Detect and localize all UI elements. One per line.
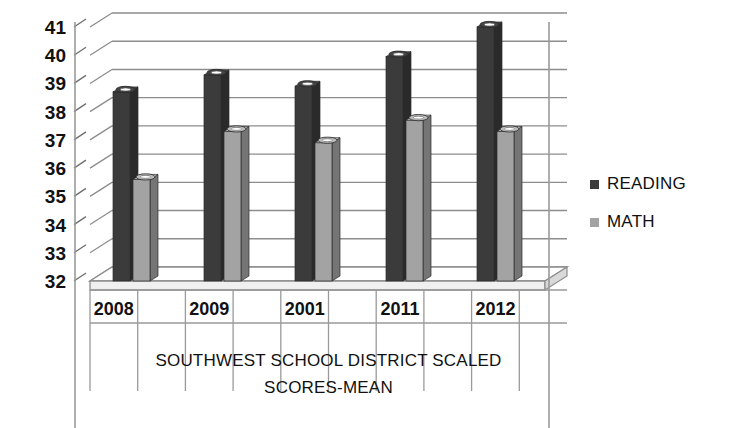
chart-container: 41403938373635343332 2008200920012011201… — [0, 0, 735, 428]
y-axis-tick-label: 35 — [45, 186, 67, 207]
category-label: 2011 — [381, 299, 420, 319]
bar-chart: 41403938373635343332 2008200920012011201… — [0, 0, 735, 428]
bar-top-hole — [504, 127, 514, 130]
chart-title-line-1: SOUTHWEST SCHOOL DISTRICT SCALED — [155, 351, 501, 370]
bar-top-hole — [231, 127, 241, 130]
bar-front-face — [133, 179, 150, 281]
legend-swatch-math — [590, 218, 599, 227]
bar-math-2009 — [224, 126, 249, 281]
bar-top-hole — [322, 139, 332, 142]
bar-top-hole — [211, 71, 221, 74]
bar-front-face — [295, 86, 312, 281]
bar-top-hole — [120, 88, 130, 91]
category-label: 2012 — [475, 299, 515, 319]
bar-front-face — [386, 57, 403, 281]
bar-top-hole — [484, 23, 494, 26]
category-label: 2009 — [189, 299, 229, 319]
bar-math-2011 — [406, 115, 431, 281]
category-label: 2001 — [285, 299, 325, 319]
category-label: 2008 — [94, 299, 134, 319]
bar-math-2012 — [497, 126, 522, 281]
bar-front-face — [204, 75, 221, 281]
bar-front-face — [224, 131, 241, 281]
y-axis-tick-label: 38 — [45, 102, 66, 123]
legend-label-reading[interactable]: READING — [607, 174, 686, 193]
bar-side-face — [241, 126, 249, 281]
bar-front-face — [315, 143, 332, 281]
y-axis-tick-label: 40 — [45, 45, 66, 66]
y-axis-tick-label: 34 — [45, 215, 67, 236]
bar-math-2008 — [133, 174, 158, 281]
bar-top-hole — [413, 116, 423, 119]
bar-side-face — [423, 115, 431, 281]
y-axis-tick-label: 32 — [45, 271, 66, 292]
y-axis-tick-label: 33 — [45, 243, 66, 264]
chart-title-line-2: SCORES-MEAN — [264, 378, 393, 397]
bar-front-face — [113, 92, 130, 281]
bar-math-2001 — [315, 137, 340, 281]
bar-top-hole — [140, 175, 150, 178]
legend-label-math[interactable]: MATH — [607, 212, 655, 231]
legend-swatch-reading — [590, 180, 599, 189]
bar-side-face — [150, 174, 158, 281]
bar-top-hole — [302, 82, 312, 85]
floor-front-face — [90, 281, 545, 290]
bar-front-face — [497, 131, 514, 281]
y-axis-tick-label: 39 — [45, 73, 66, 94]
bar-side-face — [332, 138, 340, 281]
bar-side-face — [514, 126, 522, 281]
y-axis-tick-label: 36 — [45, 158, 66, 179]
bar-top-hole — [393, 53, 403, 56]
y-axis-tick-label: 37 — [45, 130, 66, 151]
bar-front-face — [406, 120, 423, 281]
bar-front-face — [477, 27, 494, 281]
y-axis-tick-label: 41 — [45, 17, 67, 38]
